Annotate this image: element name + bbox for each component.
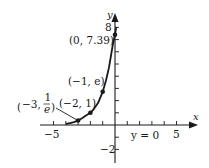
x-axis: x −5 5 [40, 111, 199, 140]
x-tick-label-5: 5 [173, 128, 180, 140]
label-point-neg1-e: (−1, e) [68, 75, 105, 87]
x-axis-label: x [193, 111, 199, 122]
y-tick-label-neg2: −2 [100, 143, 115, 155]
label-point-neg3-1-over-e: ( −3, 1 e ) [17, 91, 55, 115]
label-point-neg2-1: (−2, 1) [59, 97, 96, 109]
point-neg2-1 [88, 111, 93, 116]
point-neg1-e [100, 90, 105, 95]
exponential-graph: x −5 5 y 8 −2 y = 0 [0, 0, 209, 168]
svg-text:e: e [44, 103, 50, 115]
point-neg3-1-over-e [76, 118, 81, 123]
leader-line [56, 108, 77, 120]
y-axis-label: y [106, 9, 113, 20]
y-tick-label-8: 8 [105, 21, 112, 33]
svg-text:): ) [51, 101, 55, 113]
x-axis-arrow-icon [189, 122, 198, 129]
label-point-0-7.39: (0, 7.39) [69, 34, 114, 46]
svg-text:−3,: −3, [22, 98, 41, 110]
asymptote-label: y = 0 [130, 129, 159, 141]
svg-text:(: ( [17, 101, 21, 113]
x-tick-label-neg5: −5 [44, 128, 59, 140]
